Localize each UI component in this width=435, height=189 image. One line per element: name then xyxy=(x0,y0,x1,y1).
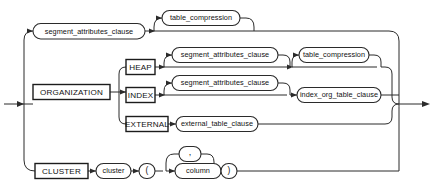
node-comma-loop[interactable]: , xyxy=(179,147,201,162)
node-column-term[interactable]: column xyxy=(175,164,221,179)
node-table-compression-top[interactable]: table_compression xyxy=(162,11,240,26)
heap-row: HEAP segment_attributes_clause table_com… xyxy=(126,48,369,75)
node-cluster-keyword[interactable]: CLUSTER xyxy=(35,164,88,179)
node-index-org-table-clause[interactable]: index_org_table_clause xyxy=(297,88,381,103)
node-cluster-term[interactable]: cluster xyxy=(96,164,131,179)
cluster-keyword-label: CLUSTER xyxy=(42,167,81,176)
node-table-compression-heap[interactable]: table_compression xyxy=(299,48,369,63)
organization-label: ORGANIZATION xyxy=(40,88,103,97)
node-right-paren[interactable]: ) xyxy=(221,164,237,179)
exit-arrow-icon xyxy=(422,101,430,107)
node-organization-keyword[interactable]: ORGANIZATION xyxy=(33,85,110,100)
railroad-diagram: segment_attributes_clause table_compress… xyxy=(0,0,435,189)
segment-attributes-branch: segment_attributes_clause table_compress… xyxy=(33,11,240,40)
left-paren-label: ( xyxy=(146,165,149,175)
column-term-label: column xyxy=(186,166,210,175)
node-segment-attributes-clause-index[interactable]: segment_attributes_clause xyxy=(172,76,278,91)
cluster-term-label: cluster xyxy=(103,166,125,175)
right-paren-label: ) xyxy=(228,165,231,175)
node-left-paren[interactable]: ( xyxy=(139,164,155,179)
cluster-branch: CLUSTER cluster ( , column ) xyxy=(35,147,237,179)
node-external-keyword[interactable]: EXTERNAL xyxy=(125,117,169,132)
external-table-clause-label: external_table_clause xyxy=(181,119,253,128)
table-compression-top-label: table_compression xyxy=(170,13,232,22)
railroad-diagram-canvas: segment_attributes_clause table_compress… xyxy=(0,0,435,189)
index-org-table-clause-label: index_org_table_clause xyxy=(300,90,378,99)
segment-attributes-clause-heap-label: segment_attributes_clause xyxy=(181,50,269,59)
table-compression-heap-label: table_compression xyxy=(303,50,365,59)
node-index-keyword[interactable]: INDEX xyxy=(126,88,155,103)
node-external-table-clause[interactable]: external_table_clause xyxy=(176,117,258,132)
organization-branch: ORGANIZATION HEAP segment_attributes_cla… xyxy=(33,48,381,132)
comma-label: , xyxy=(189,147,192,157)
external-label: EXTERNAL xyxy=(125,120,169,129)
segment-attributes-clause-top-label: segment_attributes_clause xyxy=(45,27,133,36)
node-segment-attributes-clause-heap[interactable]: segment_attributes_clause xyxy=(172,48,278,63)
node-heap-keyword[interactable]: HEAP xyxy=(126,60,155,75)
external-row: EXTERNAL external_table_clause xyxy=(125,117,258,132)
heap-label: HEAP xyxy=(129,63,152,72)
index-label: INDEX xyxy=(128,91,154,100)
segment-attributes-clause-index-label: segment_attributes_clause xyxy=(181,78,269,87)
node-segment-attributes-clause-top[interactable]: segment_attributes_clause xyxy=(33,24,145,40)
entry-arrow-icon xyxy=(17,101,24,107)
